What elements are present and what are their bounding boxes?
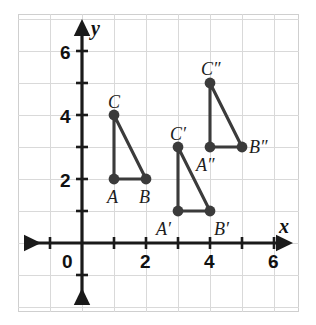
vertex-a-prime [173, 206, 184, 217]
x-tick-label-4: 4 [204, 252, 215, 271]
y-tick-label-6: 6 [60, 43, 71, 62]
point-label-a-double-prime: A″ [196, 156, 215, 174]
point-label-c-prime: C′ [170, 125, 186, 143]
x-tick-label-2: 2 [140, 252, 151, 271]
vertex-c-double-prime [205, 78, 216, 89]
point-label-b: B [139, 188, 150, 206]
x-axis-label: x [279, 216, 289, 236]
x-tick-label-0: 0 [62, 252, 73, 271]
triangle-a1b1c1 [173, 142, 216, 217]
point-label-b-prime: B′ [214, 220, 229, 238]
y-axis-label: y [91, 18, 100, 38]
y-tick-label-2: 2 [60, 171, 71, 190]
point-label-c: C [108, 93, 120, 111]
vertex-b-prime [205, 206, 216, 217]
x-tick-label-6: 6 [268, 252, 279, 271]
y-tick-label-4: 4 [60, 107, 71, 126]
coordinate-plane-figure: 0 2 4 6 2 4 6 y x A B C A′ B′ C′ A″ B″ C… [0, 0, 316, 325]
point-label-a: A [107, 188, 118, 206]
triangles-layer [0, 0, 316, 325]
triangle-a2b2c2-edges [210, 83, 242, 147]
point-label-a-prime: A′ [156, 220, 171, 238]
vertex-a-double-prime [205, 142, 216, 153]
triangle-a2b2c2 [205, 78, 248, 153]
vertex-a [109, 174, 120, 185]
vertex-b [141, 174, 152, 185]
point-label-c-double-prime: C″ [201, 60, 221, 78]
vertex-b-double-prime [237, 142, 248, 153]
triangle-abc [109, 110, 152, 185]
point-label-b-double-prime: B″ [249, 138, 268, 156]
triangle-abc-edges [114, 115, 146, 179]
